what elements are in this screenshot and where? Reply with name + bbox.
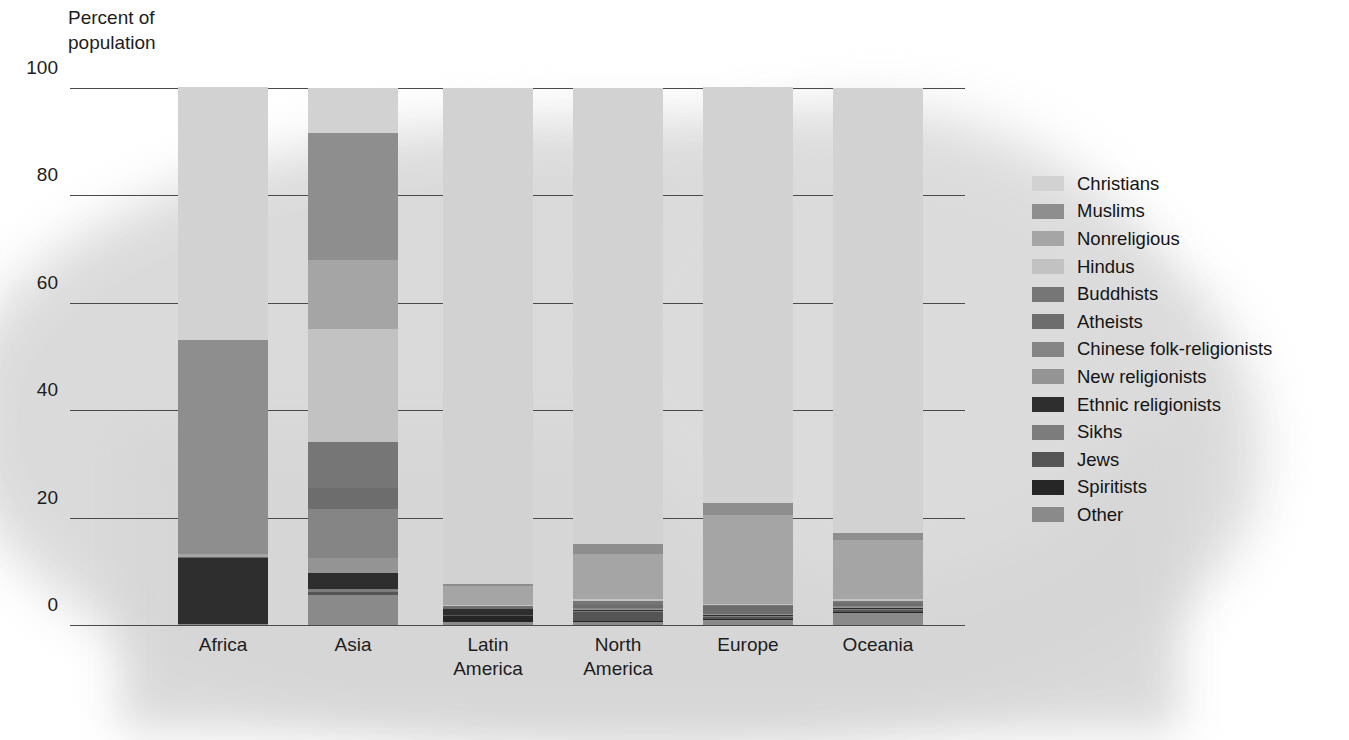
segment-other[interactable] — [573, 622, 663, 625]
segment-buddhists[interactable] — [308, 442, 398, 488]
x-label-oceania: Oceania — [803, 633, 953, 657]
legend-swatch-icon — [1032, 287, 1064, 302]
segment-other[interactable] — [178, 624, 268, 625]
legend-label: Muslims — [1077, 200, 1145, 222]
segment-muslims[interactable] — [308, 133, 398, 259]
segment-jews[interactable] — [573, 612, 663, 622]
legend-label: Hindus — [1077, 256, 1135, 278]
legend-label: Ethnic religionists — [1077, 394, 1221, 416]
legend-label: Nonreligious — [1077, 228, 1180, 250]
segment-new-religionists[interactable] — [308, 558, 398, 573]
segment-muslims[interactable] — [573, 544, 663, 554]
segment-christians[interactable] — [703, 87, 793, 503]
legend-label: Christians — [1077, 173, 1159, 195]
legend-swatch-icon — [1032, 452, 1064, 467]
legend-swatch-icon — [1032, 480, 1064, 495]
segment-nonreligious[interactable] — [703, 515, 793, 604]
bar-asia[interactable] — [308, 88, 398, 625]
segment-christians[interactable] — [573, 88, 663, 544]
legend-swatch-icon — [1032, 369, 1064, 384]
segment-nonreligious[interactable] — [443, 586, 533, 605]
legend-label: Chinese folk-religionists — [1077, 338, 1272, 360]
bar-north-america[interactable] — [573, 88, 663, 625]
legend-label: Other — [1077, 504, 1123, 526]
segment-christians[interactable] — [833, 88, 923, 534]
segment-chinese-folk-religionists[interactable] — [308, 509, 398, 557]
legend-swatch-icon — [1032, 425, 1064, 440]
legend-label: Sikhs — [1077, 421, 1122, 443]
legend-swatch-icon — [1032, 507, 1064, 522]
bar-africa[interactable] — [178, 87, 268, 625]
legend-item-muslims[interactable]: Muslims — [1032, 198, 1272, 226]
legend-item-buddhists[interactable]: Buddhists — [1032, 280, 1272, 308]
x-label-africa: Africa — [148, 633, 298, 657]
segment-muslims[interactable] — [703, 503, 793, 515]
legend-item-christians[interactable]: Christians — [1032, 170, 1272, 198]
bar-latin-america[interactable] — [443, 88, 533, 625]
segment-christians[interactable] — [178, 87, 268, 339]
legend-label: Atheists — [1077, 311, 1143, 333]
segment-atheists[interactable] — [308, 488, 398, 509]
legend-swatch-icon — [1032, 259, 1064, 274]
legend-item-ethnic-religionists[interactable]: Ethnic religionists — [1032, 391, 1272, 419]
segment-christians[interactable] — [308, 88, 398, 134]
legend-item-jews[interactable]: Jews — [1032, 446, 1272, 474]
segment-ethnic-religionists[interactable] — [178, 558, 268, 624]
legend-item-spiritists[interactable]: Spiritists — [1032, 474, 1272, 502]
legend-item-nonreligious[interactable]: Nonreligious — [1032, 225, 1272, 253]
segment-nonreligious[interactable] — [573, 554, 663, 600]
segment-christians[interactable] — [443, 88, 533, 585]
legend-swatch-icon — [1032, 204, 1064, 219]
segment-nonreligious[interactable] — [833, 540, 923, 599]
segment-hindus[interactable] — [308, 329, 398, 442]
y-tick-label-60: 60 — [37, 272, 58, 294]
segment-other[interactable] — [443, 622, 533, 625]
legend-item-atheists[interactable]: Atheists — [1032, 308, 1272, 336]
y-tick-label-40: 40 — [37, 379, 58, 401]
segment-muslims[interactable] — [178, 340, 268, 555]
legend-item-new-religionists[interactable]: New religionists — [1032, 363, 1272, 391]
legend-item-other[interactable]: Other — [1032, 501, 1272, 529]
legend-item-chinese-folk-religionists[interactable]: Chinese folk-religionists — [1032, 336, 1272, 364]
plot-area: 020406080100 AfricaAsiaLatin AmericaNort… — [70, 88, 965, 625]
segment-ethnic-religionists[interactable] — [308, 573, 398, 589]
bar-oceania[interactable] — [833, 88, 923, 625]
y-tick-label-20: 20 — [37, 487, 58, 509]
legend-label: Buddhists — [1077, 283, 1158, 305]
y-axis-title: Percent of population — [68, 5, 156, 55]
legend-swatch-icon — [1032, 397, 1064, 412]
y-tick-label-80: 80 — [37, 165, 58, 187]
legend-swatch-icon — [1032, 342, 1064, 357]
legend-label: Jews — [1077, 449, 1119, 471]
gridline-0 — [70, 625, 965, 626]
chart-legend: ChristiansMuslimsNonreligiousHindusBuddh… — [1032, 170, 1272, 529]
bar-europe[interactable] — [703, 87, 793, 625]
legend-swatch-icon — [1032, 176, 1064, 191]
x-label-asia: Asia — [278, 633, 428, 657]
x-label-europe: Europe — [673, 633, 823, 657]
segment-other[interactable] — [308, 595, 398, 625]
legend-label: New religionists — [1077, 366, 1207, 388]
legend-label: Spiritists — [1077, 476, 1147, 498]
x-label-latin-america: Latin America — [413, 633, 563, 681]
segment-nonreligious[interactable] — [308, 260, 398, 330]
segment-other[interactable] — [833, 613, 923, 625]
segment-atheists[interactable] — [703, 606, 793, 614]
legend-item-sikhs[interactable]: Sikhs — [1032, 418, 1272, 446]
legend-swatch-icon — [1032, 314, 1064, 329]
x-label-north-america: North America — [543, 633, 693, 681]
y-tick-label-0: 0 — [47, 594, 58, 616]
segment-other[interactable] — [703, 620, 793, 625]
y-tick-label-100: 100 — [26, 57, 58, 79]
legend-swatch-icon — [1032, 231, 1064, 246]
legend-item-hindus[interactable]: Hindus — [1032, 253, 1272, 281]
